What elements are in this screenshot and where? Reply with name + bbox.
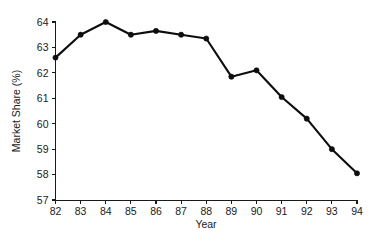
data-point [53,55,58,60]
x-axis-title: Year [195,218,217,230]
y-axis-title: Market Share (%) [10,70,22,152]
data-point [128,32,133,37]
x-tick-label: 83 [75,205,87,217]
data-point [304,116,309,121]
y-axis-ticks [52,22,56,200]
x-tick-label: 86 [150,205,162,217]
chart-axes [55,22,357,201]
x-tick-label: 87 [175,205,187,217]
x-tick-label: 93 [326,205,338,217]
y-tick-label: 63 [37,41,49,53]
series-line-market-share [56,22,358,173]
y-tick-label: 64 [37,16,49,28]
y-axis-tick-labels: 5758596061626364 [37,16,49,206]
data-point [179,32,184,37]
chart-plot-svg: 5758596061626364 82838485868788899091929… [0,0,384,242]
x-tick-label: 90 [251,205,263,217]
x-tick-label: 88 [200,205,212,217]
data-point [254,68,259,73]
data-point [279,94,284,99]
y-tick-label: 61 [37,92,49,104]
data-point [329,147,334,152]
data-point [229,74,234,79]
y-tick-label: 62 [37,67,49,79]
series-markers-market-share [53,19,360,176]
y-tick-label: 59 [37,143,49,155]
data-point [354,171,359,176]
data-point [204,36,209,41]
x-tick-label: 92 [301,205,313,217]
y-tick-label: 60 [37,118,49,130]
x-tick-label: 91 [276,205,288,217]
x-axis-tick-labels: 82838485868788899091929394 [50,205,363,217]
data-point [78,32,83,37]
x-tick-label: 94 [351,205,363,217]
market-share-line-chart: 5758596061626364 82838485868788899091929… [0,0,384,242]
y-tick-label: 58 [37,168,49,180]
data-point [153,28,158,33]
x-tick-label: 82 [50,205,62,217]
data-point [103,19,108,24]
x-tick-label: 85 [125,205,137,217]
data-series-market-share [53,19,360,176]
y-tick-label: 57 [37,194,49,206]
x-tick-label: 84 [100,205,112,217]
x-tick-label: 89 [226,205,238,217]
